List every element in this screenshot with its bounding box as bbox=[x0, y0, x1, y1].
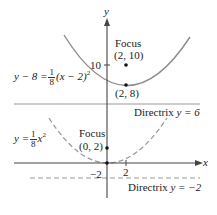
upper-eq-lhs: y − 8 = bbox=[14, 70, 47, 82]
x-axis-arrow-icon bbox=[195, 160, 203, 166]
upper-vertex-coords: (2, 8) bbox=[115, 88, 139, 99]
lower-parabola-equation: y =18x2 bbox=[14, 130, 46, 149]
upper-directrix-label: Directrix y = 6 bbox=[134, 107, 200, 118]
focus-point-lower bbox=[105, 146, 109, 150]
upper-eq-rhs: (x − 2) bbox=[56, 70, 87, 82]
x-axis-label: x bbox=[203, 157, 208, 168]
upper-eq-fraction: 18 bbox=[48, 68, 55, 87]
lower-directrix-word: Directrix bbox=[128, 181, 168, 193]
lower-focus-coords: (0, 2) bbox=[79, 141, 103, 152]
tick-label-y10: 10 bbox=[90, 60, 101, 71]
lower-focus-label: Focus bbox=[79, 128, 105, 139]
lower-eq-exponent: 2 bbox=[42, 131, 46, 139]
y-axis-label: y bbox=[104, 6, 109, 17]
lower-eq-lhs: y = bbox=[14, 132, 29, 144]
tick-label-yneg2: −2 bbox=[90, 169, 102, 180]
lower-parabola-curve bbox=[49, 118, 167, 163]
upper-directrix-eq: y = 6 bbox=[176, 106, 199, 118]
lower-directrix-label: Directrix y = −2 bbox=[128, 182, 201, 193]
tick-label-x2: 2 bbox=[123, 167, 129, 178]
upper-eq-exponent: 2 bbox=[87, 69, 91, 77]
lower-directrix-eq: y = −2 bbox=[170, 181, 201, 193]
upper-directrix-word: Directrix bbox=[134, 106, 174, 118]
upper-parabola-equation: y − 8 =18(x − 2)2 bbox=[14, 68, 90, 87]
origin-vertex-point bbox=[105, 161, 109, 165]
y-axis-arrow-icon bbox=[104, 18, 110, 26]
lower-eq-fraction: 18 bbox=[30, 130, 37, 149]
parabola-translation-diagram: y x 10 2 −2 Focus (2, 10) (2, 8) Directr… bbox=[0, 0, 217, 215]
upper-focus-label: Focus bbox=[115, 38, 141, 49]
focus-point-upper bbox=[124, 63, 128, 67]
upper-focus-coords: (2, 10) bbox=[114, 50, 143, 61]
